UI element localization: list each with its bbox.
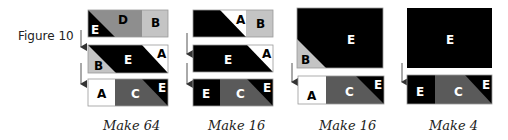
- patch-label-E: E: [158, 81, 166, 95]
- patch-label-B: B: [151, 16, 160, 30]
- unit-3-row-2: A C E: [298, 76, 384, 104]
- patch-label-D: D: [118, 13, 128, 27]
- unit-4-row-1: E: [407, 8, 492, 68]
- unit-1: E D B B E A A C E Make 64: [81, 10, 168, 133]
- patch-label-E: E: [416, 85, 424, 99]
- patch-label-E: E: [347, 33, 355, 47]
- patch-label-A: A: [236, 13, 246, 27]
- patch-label-A: A: [157, 47, 167, 61]
- figure-title: Figure 10: [18, 29, 74, 43]
- patch-label-A: A: [97, 87, 107, 101]
- unit-2-row-1: A B: [193, 10, 273, 37]
- patch-label-C: C: [345, 85, 354, 99]
- patch-label-E: E: [446, 33, 454, 47]
- patch-label-E: E: [224, 53, 232, 67]
- patch-label-B: B: [301, 53, 310, 67]
- patch-label-A: A: [307, 89, 317, 103]
- make-count-label: Make 64: [102, 118, 160, 133]
- patch-label-B: B: [256, 17, 265, 31]
- unit-4-row-2: E C E: [407, 75, 492, 104]
- unit-1-row-2: B E A: [88, 45, 168, 73]
- unit-1-row-3: A C E: [88, 79, 168, 106]
- patch-label-E: E: [91, 23, 99, 37]
- patch-label-C: C: [454, 85, 463, 99]
- quilt-assembly-diagram: Figure 10 E D B B E A: [0, 0, 508, 140]
- make-count-label: Make 16: [207, 118, 265, 133]
- unit-3: E B A C E Make 16: [292, 8, 384, 133]
- patch-label-E: E: [482, 78, 490, 92]
- unit-4: E E C E Make 4: [402, 8, 492, 133]
- unit-2: A B E A E C E Make 16: [187, 10, 273, 133]
- unit-2-row-2: E A: [193, 45, 273, 72]
- unit-1-row-1: E D B: [88, 10, 168, 37]
- patch-label-A: A: [262, 47, 272, 61]
- patch-label-C: C: [236, 87, 245, 101]
- patch-label-C: C: [131, 87, 140, 101]
- make-count-label: Make 4: [428, 118, 478, 133]
- unit-2-row-3: E C E: [193, 79, 273, 106]
- unit-3-row-1: E B: [297, 8, 383, 68]
- patch-label-E: E: [263, 81, 271, 95]
- patch-label-B: B: [94, 59, 103, 73]
- make-count-label: Make 16: [318, 118, 376, 133]
- patch-label-E: E: [124, 53, 132, 67]
- patch-label-E: E: [374, 78, 382, 92]
- patch-label-E: E: [202, 87, 210, 101]
